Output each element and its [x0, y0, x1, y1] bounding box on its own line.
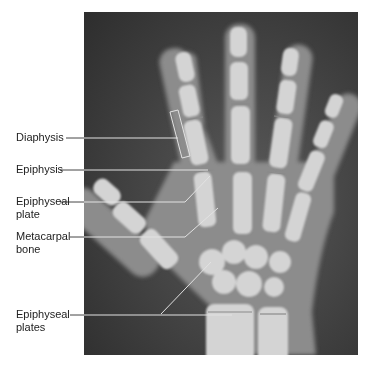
label-metacarpal-bone: Metacarpal bone [16, 230, 70, 255]
diaphysis-bracket [170, 110, 190, 158]
epiphyseal-plates-diagonal [161, 262, 211, 314]
label-epiphyseal-plates: Epiphyseal plates [16, 308, 70, 333]
metacarpal-bone-leader [70, 208, 218, 237]
label-epiphysis: Epiphysis [16, 163, 63, 176]
label-diaphysis: Diaphysis [16, 131, 64, 144]
epiphyseal-plate-leader [60, 176, 210, 202]
label-epiphyseal-plate: Epiphyseal plate [16, 195, 70, 220]
